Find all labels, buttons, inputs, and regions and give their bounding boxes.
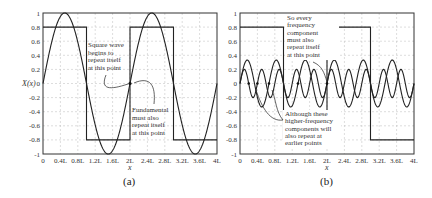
x-tick-label: 3.2L xyxy=(176,157,189,165)
y-tick-label: -0.4 xyxy=(29,108,41,116)
y-tick-label: 0.4 xyxy=(228,52,237,60)
annotation-text: at this point xyxy=(88,64,121,72)
y-tick-label: -0.6 xyxy=(29,122,41,130)
y-tick-label: -1 xyxy=(34,151,40,159)
y-tick-label: -0.2 xyxy=(226,94,238,102)
y-tick-label: 0.4 xyxy=(31,52,40,60)
y-tick-label: 0 xyxy=(37,80,41,88)
x-tick-label: 0.8L xyxy=(268,157,281,165)
x-tick-label: 4L xyxy=(213,157,221,165)
x-axis-label-b: x xyxy=(324,163,329,172)
x-tick-label: 1.6L xyxy=(303,157,316,165)
x-tick-label: 0.8L xyxy=(71,157,84,165)
x-tick-label: 3.6L xyxy=(390,157,403,165)
y-tick-label: -1 xyxy=(231,151,237,159)
y-tick-label: 0.2 xyxy=(31,66,40,74)
x-tick-label: 2.4L xyxy=(141,157,154,165)
y-tick-label: 0.6 xyxy=(31,38,40,46)
x-tick-label: 0 xyxy=(238,157,242,165)
y-tick-label: 1 xyxy=(234,10,238,18)
y-tick-label: 0.8 xyxy=(31,24,40,32)
x-tick-label: 2.4L xyxy=(338,157,351,165)
y-tick-label: -0.6 xyxy=(226,122,238,130)
x-tick-label: 3.6L xyxy=(193,157,206,165)
x-tick-label: 2.8L xyxy=(355,157,368,165)
x-tick-label: 1.2L xyxy=(89,157,102,165)
caption-b: (b) xyxy=(320,175,333,188)
y-axis-label-a: X(x) xyxy=(21,79,36,88)
panel-b-plot: 00.4L0.8L1.2L1.6L2L2.4L2.8L3.2L3.6L4L10.… xyxy=(226,10,418,166)
y-tick-label: 1 xyxy=(37,10,41,18)
y-tick-label: -0.2 xyxy=(29,94,41,102)
x-tick-label: 0 xyxy=(41,157,45,165)
annotation-text: at this point xyxy=(287,51,320,59)
x-tick-label: 1.6L xyxy=(106,157,119,165)
caption-a: (a) xyxy=(123,175,136,188)
y-tick-label: -0.4 xyxy=(226,108,238,116)
x-axis-label-a: x xyxy=(127,163,132,172)
x-tick-label: 2.8L xyxy=(158,157,171,165)
x-tick-label: 4L xyxy=(410,157,418,165)
y-tick-label: -0.8 xyxy=(226,136,238,144)
y-tick-label: -0.8 xyxy=(29,136,41,144)
y-tick-label: 0.8 xyxy=(228,24,237,32)
annotation-text: earlier points xyxy=(285,139,322,147)
x-tick-label: 1.2L xyxy=(286,157,299,165)
annotation-text: at this point xyxy=(132,129,165,137)
panel-a-plot: 00.4L0.8L1.2L1.6L2L2.4L2.8L3.2L3.6L4L10.… xyxy=(29,10,221,166)
x-tick-label: 0.4L xyxy=(251,157,264,165)
y-tick-label: 0 xyxy=(234,80,238,88)
x-tick-label: 0.4L xyxy=(54,157,67,165)
x-tick-label: 3.2L xyxy=(373,157,386,165)
fourier-figure: 00.4L0.8L1.2L1.6L2L2.4L2.8L3.2L3.6L4L10.… xyxy=(0,0,432,198)
y-tick-label: 0.6 xyxy=(228,38,237,46)
y-tick-label: 0.2 xyxy=(228,66,237,74)
